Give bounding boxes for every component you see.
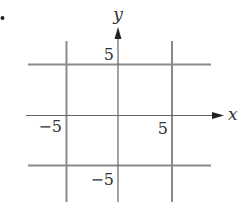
coordinate-plane: y x 5 −5 5 −5 bbox=[0, 0, 247, 208]
bullet-marker bbox=[1, 16, 5, 20]
x-axis-label: x bbox=[228, 104, 238, 124]
tick-label-x-pos5: 5 bbox=[158, 119, 168, 138]
x-axis-arrow-icon bbox=[212, 112, 224, 119]
y-axis-label: y bbox=[112, 4, 123, 24]
tick-label-y-neg5: −5 bbox=[90, 170, 114, 189]
tick-label-y-pos5: 5 bbox=[104, 45, 114, 64]
y-axis-arrow-icon bbox=[115, 27, 122, 39]
tick-label-x-neg5: −5 bbox=[38, 117, 62, 136]
